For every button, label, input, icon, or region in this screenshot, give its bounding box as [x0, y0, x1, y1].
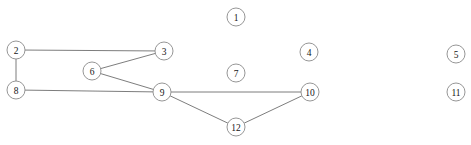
node-circle-2[interactable] [7, 41, 25, 59]
graph-node-8[interactable]: 8 [7, 81, 25, 99]
graph-node-11[interactable]: 11 [447, 83, 465, 101]
graph-node-4[interactable]: 4 [300, 43, 318, 61]
graph-node-6[interactable]: 6 [83, 62, 101, 80]
graph-svg: 123456789101112 [0, 0, 471, 145]
graph-edge-9-12 [170, 96, 228, 123]
node-layer: 123456789101112 [7, 8, 465, 136]
graph-node-3[interactable]: 3 [155, 42, 173, 60]
graph-canvas: 123456789101112 [0, 0, 471, 145]
node-circle-6[interactable] [83, 62, 101, 80]
node-circle-10[interactable] [301, 83, 319, 101]
graph-node-9[interactable]: 9 [153, 83, 171, 101]
graph-node-2[interactable]: 2 [7, 41, 25, 59]
graph-node-7[interactable]: 7 [227, 64, 245, 82]
graph-edge-2-3 [25, 50, 155, 51]
graph-node-5[interactable]: 5 [447, 45, 465, 63]
node-circle-8[interactable] [7, 81, 25, 99]
node-circle-7[interactable] [227, 64, 245, 82]
graph-edge-8-9 [25, 90, 153, 92]
graph-edge-6-9 [101, 74, 154, 90]
node-circle-12[interactable] [227, 118, 245, 136]
node-circle-1[interactable] [227, 8, 245, 26]
graph-edge-12-10 [244, 96, 302, 123]
graph-node-1[interactable]: 1 [227, 8, 245, 26]
node-circle-9[interactable] [153, 83, 171, 101]
graph-node-10[interactable]: 10 [301, 83, 319, 101]
node-circle-4[interactable] [300, 43, 318, 61]
graph-edge-6-3 [101, 53, 156, 68]
node-circle-5[interactable] [447, 45, 465, 63]
graph-node-12[interactable]: 12 [227, 118, 245, 136]
node-circle-11[interactable] [447, 83, 465, 101]
node-circle-3[interactable] [155, 42, 173, 60]
